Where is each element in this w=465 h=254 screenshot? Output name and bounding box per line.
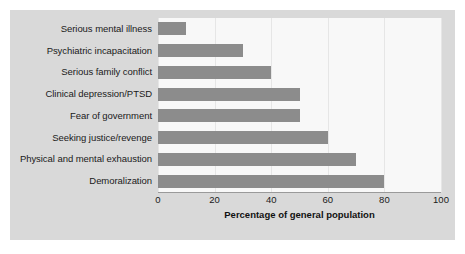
- category-label: Clinical depression/PTSD: [10, 83, 158, 105]
- x-tick-label: 20: [209, 194, 220, 205]
- x-tick-label: 40: [266, 194, 277, 205]
- plot-area: [158, 18, 441, 192]
- x-tick-label: 80: [379, 194, 390, 205]
- bar-row: [158, 18, 441, 40]
- x-axis-title: Percentage of general population: [158, 209, 441, 220]
- category-label: Demoralization: [10, 170, 158, 192]
- bar: [158, 66, 271, 79]
- category-label: Physical and mental exhaustion: [10, 149, 158, 171]
- category-label: Psychiatric incapacitation: [10, 40, 158, 62]
- x-tick-label: 0: [155, 194, 160, 205]
- category-axis: Serious mental illnessPsychiatric incapa…: [10, 18, 158, 192]
- bar-row: [158, 127, 441, 149]
- bar: [158, 131, 328, 144]
- bar-row: [158, 105, 441, 127]
- bar-row: [158, 149, 441, 171]
- bar-row: [158, 40, 441, 62]
- bar: [158, 109, 300, 122]
- bar-row: [158, 170, 441, 192]
- bar: [158, 22, 186, 35]
- bar: [158, 153, 356, 166]
- bar: [158, 88, 300, 101]
- category-label: Serious mental illness: [10, 18, 158, 40]
- gridline: [441, 18, 442, 192]
- category-label: Seeking justice/revenge: [10, 127, 158, 149]
- chart-panel: Serious mental illnessPsychiatric incapa…: [10, 10, 455, 240]
- x-axis-line: [158, 192, 441, 193]
- bars-layer: [158, 18, 441, 192]
- bar: [158, 175, 384, 188]
- x-axis-tick-labels: 020406080100: [158, 194, 441, 208]
- bar: [158, 44, 243, 57]
- category-label: Serious family conflict: [10, 62, 158, 84]
- x-tick-label: 60: [323, 194, 334, 205]
- x-tick-label: 100: [433, 194, 449, 205]
- bar-row: [158, 83, 441, 105]
- category-label: Fear of government: [10, 105, 158, 127]
- bar-row: [158, 62, 441, 84]
